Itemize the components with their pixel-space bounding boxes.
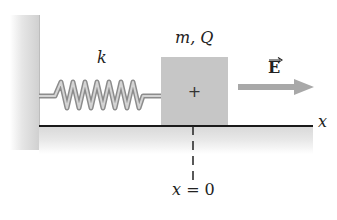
spring-constant-label: k: [97, 48, 107, 67]
origin-equals-zero: = 0: [186, 180, 215, 199]
origin-dashed-line: [190, 126, 196, 184]
origin-label: x = 0: [172, 180, 215, 199]
fixed-wall: [10, 15, 40, 150]
floor-surface: [39, 126, 313, 154]
positive-charge-icon: +: [161, 57, 228, 125]
block-label: m, Q: [175, 28, 213, 47]
x-axis-label: x: [318, 112, 327, 131]
electric-field-arrow-icon: [238, 78, 316, 96]
spring-icon: [39, 78, 163, 114]
mass-block: +: [161, 57, 228, 125]
x-axis-line: [39, 125, 313, 127]
electric-field-label: E: [268, 58, 280, 77]
origin-variable: x: [172, 180, 181, 199]
